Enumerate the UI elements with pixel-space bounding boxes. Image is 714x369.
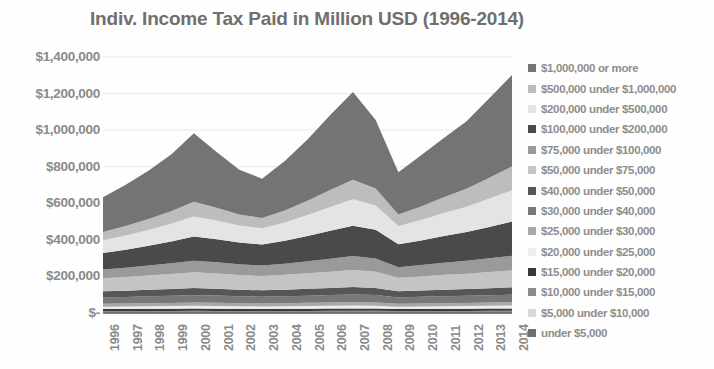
legend-item[interactable]: $500,000 under $1,000,000: [528, 78, 714, 98]
x-axis-tick-label: 1999: [176, 324, 190, 351]
x-axis-tick-label: 1997: [131, 324, 145, 351]
legend-item-label: $5,000 under $10,000: [541, 307, 649, 319]
legend-swatch-icon: [528, 187, 536, 195]
legend-swatch-icon: [528, 288, 536, 296]
x-axis-tick-label: 2013: [494, 324, 508, 351]
chart-legend: $1,000,000 or more$500,000 under $1,000,…: [528, 58, 714, 343]
legend-item[interactable]: $75,000 under $100,000: [528, 140, 714, 160]
legend-swatch-icon: [528, 166, 536, 174]
legend-swatch-icon: [528, 268, 536, 276]
legend-item-label: $30,000 under $40,000: [541, 205, 655, 217]
legend-item-label: $15,000 under $20,000: [541, 266, 655, 278]
legend-swatch-icon: [528, 207, 536, 215]
legend-swatch-icon: [528, 85, 536, 93]
x-axis-tick-label: 1996: [108, 324, 122, 351]
legend-item-label: $50,000 under $75,000: [541, 164, 655, 176]
legend-item-label: under $5,000: [541, 327, 607, 339]
x-axis-tick-label: 2010: [426, 324, 440, 351]
legend-item-label: $500,000 under $1,000,000: [541, 83, 676, 95]
legend-item-label: $10,000 under $15,000: [541, 286, 655, 298]
legend-item-label: $100,000 under $200,000: [541, 123, 667, 135]
legend-item[interactable]: $200,000 under $500,000: [528, 99, 714, 119]
x-axis-tick-label: 2002: [244, 324, 258, 351]
legend-item-label: $1,000,000 or more: [541, 62, 638, 74]
legend-item-label: $25,000 under $30,000: [541, 225, 655, 237]
legend-swatch-icon: [528, 105, 536, 113]
legend-item-label: $200,000 under $500,000: [541, 103, 667, 115]
x-axis-tick-label: 2005: [313, 324, 327, 351]
legend-item-label: $40,000 under $50,000: [541, 185, 655, 197]
x-axis-tick-label: 2011: [449, 325, 463, 351]
legend-swatch-icon: [528, 227, 536, 235]
legend-item[interactable]: $5,000 under $10,000: [528, 303, 714, 323]
legend-item[interactable]: $20,000 under $25,000: [528, 242, 714, 262]
x-axis-tick-label: 2003: [267, 324, 281, 351]
legend-item[interactable]: $15,000 under $20,000: [528, 262, 714, 282]
legend-item[interactable]: $1,000,000 or more: [528, 58, 714, 78]
x-axis-tick-label: 2008: [381, 324, 395, 351]
x-axis-tick-label: 2004: [290, 324, 304, 351]
chart-container: Indiv. Income Tax Paid in Million USD (1…: [0, 0, 714, 369]
x-axis-tick-label: 2001: [222, 324, 236, 351]
legend-item[interactable]: $10,000 under $15,000: [528, 282, 714, 302]
x-axis-tick-label: 1998: [153, 324, 167, 351]
legend-swatch-icon: [528, 329, 536, 337]
legend-item[interactable]: under $5,000: [528, 323, 714, 343]
legend-item-label: $20,000 under $25,000: [541, 246, 655, 258]
x-axis-tick-label: 2009: [403, 324, 417, 351]
legend-swatch-icon: [528, 64, 536, 72]
legend-item[interactable]: $50,000 under $75,000: [528, 160, 714, 180]
x-axis-tick-label: 2000: [199, 324, 213, 351]
x-axis-tick-label: 2006: [335, 324, 349, 351]
legend-swatch-icon: [528, 125, 536, 133]
legend-item[interactable]: $40,000 under $50,000: [528, 180, 714, 200]
legend-item[interactable]: $100,000 under $200,000: [528, 119, 714, 139]
x-axis-tick-label: 2007: [358, 324, 372, 351]
legend-swatch-icon: [528, 309, 536, 317]
legend-item-label: $75,000 under $100,000: [541, 144, 661, 156]
x-axis-tick-label: 2012: [472, 324, 486, 351]
legend-item[interactable]: $30,000 under $40,000: [528, 201, 714, 221]
legend-swatch-icon: [528, 248, 536, 256]
legend-item[interactable]: $25,000 under $30,000: [528, 221, 714, 241]
legend-swatch-icon: [528, 146, 536, 154]
